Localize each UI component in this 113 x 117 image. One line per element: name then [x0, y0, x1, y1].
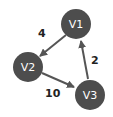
- node-v3: V3: [75, 80, 105, 110]
- node-v2: V2: [13, 52, 43, 82]
- edge-weight-v1-v2: 4: [38, 27, 46, 40]
- edge-weight-v2-v3: 10: [45, 87, 61, 100]
- node-label-v2: V2: [21, 61, 36, 74]
- node-v1: V1: [61, 9, 91, 39]
- edge-weight-v3-v1: 2: [91, 54, 99, 67]
- node-label-v1: V1: [69, 18, 84, 31]
- edge-v2-v3: [42, 73, 74, 87]
- graph-diagram: 4 10 2 V1 V2 V3: [0, 0, 113, 117]
- edge-v3-v1: [81, 41, 88, 79]
- node-label-v3: V3: [83, 89, 98, 102]
